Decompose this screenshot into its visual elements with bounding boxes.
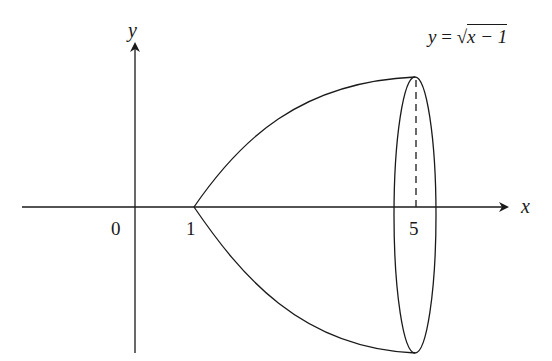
lower-curve: [194, 207, 415, 353]
equation-equals: =: [436, 26, 456, 47]
equation-label: y = √x − 1: [428, 27, 507, 46]
tick-label-1: 1: [186, 219, 196, 238]
equation-radicand: x − 1: [467, 24, 507, 47]
solid-of-revolution-diagram: [0, 0, 552, 361]
tick-label-5: 5: [409, 219, 419, 238]
sqrt-symbol: √: [457, 26, 467, 47]
cross-section-ellipse: [394, 77, 436, 353]
upper-curve: [194, 77, 415, 207]
tick-label-0: 0: [111, 219, 121, 238]
y-axis-label: y: [128, 20, 137, 40]
x-axis-label: x: [521, 196, 530, 216]
